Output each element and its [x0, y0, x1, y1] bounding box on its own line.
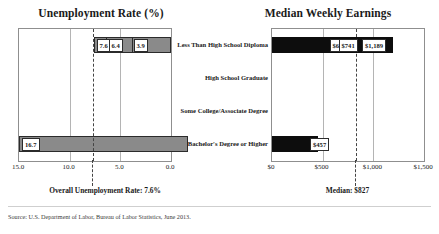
category-label-2: Some College/Associate Degree	[172, 94, 270, 127]
right-chart-title: Median Weekly Earnings	[228, 7, 428, 19]
category-label-0: Less Than High School Diploma	[172, 28, 270, 61]
footer-divider	[8, 206, 431, 207]
overall-unemployment-reference-line	[93, 29, 94, 161]
category-labels: Less Than High School Diploma High Schoo…	[172, 28, 270, 160]
axis-tick: 10.0	[62, 163, 74, 171]
right-reference-line-extension	[355, 160, 356, 186]
category-label-3: Bachelor's Degree or Higher	[172, 127, 270, 160]
unemployment-value-0: 16.7	[22, 138, 40, 151]
overall-unemployment-caption: Overall Unemployment Rate: 7.6%	[10, 186, 200, 195]
left-reference-line-extension	[92, 160, 93, 186]
category-label-1: High School Graduate	[172, 61, 270, 94]
axis-tick: $0	[268, 163, 275, 171]
unemployment-bar-0[interactable]	[19, 136, 188, 152]
source-note: Source: U.S. Department of Labor, Bureau…	[8, 213, 191, 220]
axis-tick: 15.0	[12, 163, 24, 171]
bar-row: $457	[272, 128, 424, 161]
unemployment-plot-area: 16.7 7.6 6.4 3.9	[18, 28, 172, 162]
axis-tick: $1,500	[413, 163, 432, 171]
unemployment-value-2: 6.4	[109, 39, 123, 52]
earnings-value-0: $457	[310, 138, 329, 151]
unemployment-value-3: 3.9	[134, 39, 148, 52]
axis-tick: $1,000	[363, 163, 382, 171]
earnings-value-3: $1,189	[362, 39, 386, 52]
median-earnings-caption: Median: $827	[260, 186, 435, 195]
bar-row: 16.7	[19, 128, 171, 161]
axis-tick: 5.0	[115, 163, 124, 171]
earnings-x-axis: $0 $500 $1,000 $1,500	[271, 161, 423, 175]
chart-figure: Unemployment Rate (%) Median Weekly Earn…	[0, 0, 439, 234]
earnings-value-2: $741	[339, 39, 358, 52]
axis-tick: 0.0	[166, 163, 175, 171]
axis-tick: $500	[315, 163, 329, 171]
left-chart-title: Unemployment Rate (%)	[6, 7, 196, 19]
unemployment-x-axis: 15.0 10.0 5.0 0.0	[18, 161, 170, 175]
earnings-plot-area: $457 $651 $741 $1,189	[271, 28, 425, 162]
bar-row: 3.9	[19, 29, 171, 62]
